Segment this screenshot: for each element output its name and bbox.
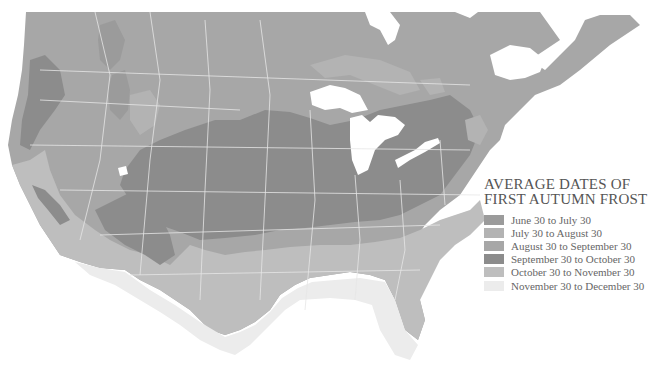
legend-swatch <box>484 215 504 225</box>
legend-label: October 30 to November 30 <box>511 266 634 278</box>
legend-swatch <box>484 254 504 264</box>
legend-swatch <box>484 228 504 238</box>
legend: AVERAGE DATES OF FIRST AUTUMN FROST June… <box>484 177 657 292</box>
legend-title-line2: FIRST AUTUMN FROST <box>484 192 657 207</box>
legend-item: October 30 to November 30 <box>484 266 657 279</box>
legend-item: August 30 to September 30 <box>484 239 657 252</box>
legend-swatch <box>484 241 504 251</box>
legend-label: August 30 to September 30 <box>511 240 631 252</box>
legend-label: September 30 to October 30 <box>511 253 635 265</box>
legend-items: June 30 to July 30 July 30 to August 30 … <box>484 213 657 292</box>
legend-title-line1: AVERAGE DATES OF <box>484 177 657 192</box>
legend-label: June 30 to July 30 <box>511 214 591 226</box>
legend-swatch <box>484 267 504 277</box>
legend-label: November 30 to December 30 <box>511 280 644 292</box>
legend-item: July 30 to August 30 <box>484 226 657 239</box>
legend-item: November 30 to December 30 <box>484 279 657 292</box>
legend-item: June 30 to July 30 <box>484 213 657 226</box>
legend-label: July 30 to August 30 <box>511 227 602 239</box>
legend-swatch <box>484 281 504 291</box>
legend-item: September 30 to October 30 <box>484 253 657 266</box>
